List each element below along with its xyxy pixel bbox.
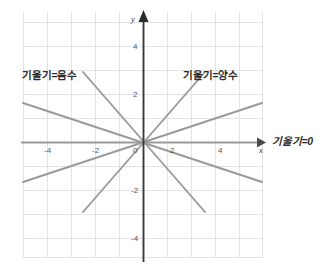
zero-slope-label: 기울기=0 (272, 133, 313, 148)
x-tick-plus-2: 2 (170, 146, 174, 155)
chart-canvas: 기울기=음수 기울기=양수 기울기=0 y x -4 -2 2 4 0 4 2 … (0, 0, 333, 280)
origin-label: 0 (133, 146, 137, 155)
y-tick-plus-2: 2 (133, 90, 137, 99)
negative-slope-label: 기울기=음수 (22, 67, 77, 82)
x-tick-minus-2: -2 (92, 146, 99, 155)
x-tick-plus-4: 4 (218, 146, 222, 155)
y-tick-minus-4: -4 (131, 234, 138, 243)
y-tick-minus-2: -2 (131, 186, 138, 195)
y-tick-plus-4: 4 (133, 42, 137, 51)
x-tick-minus-4: -4 (44, 146, 51, 155)
y-axis-name-label: y (131, 14, 135, 24)
x-axis-name-label: x (259, 145, 263, 155)
positive-slope-label: 기울기=양수 (183, 67, 238, 82)
